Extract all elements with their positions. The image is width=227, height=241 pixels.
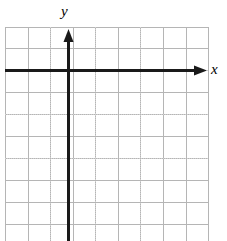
graph-screenshot: y x bbox=[0, 0, 227, 241]
x-axis-label: x bbox=[211, 62, 218, 77]
plot-background bbox=[0, 0, 227, 241]
coordinate-grid-plot bbox=[0, 0, 227, 241]
y-axis-label: y bbox=[61, 4, 68, 19]
